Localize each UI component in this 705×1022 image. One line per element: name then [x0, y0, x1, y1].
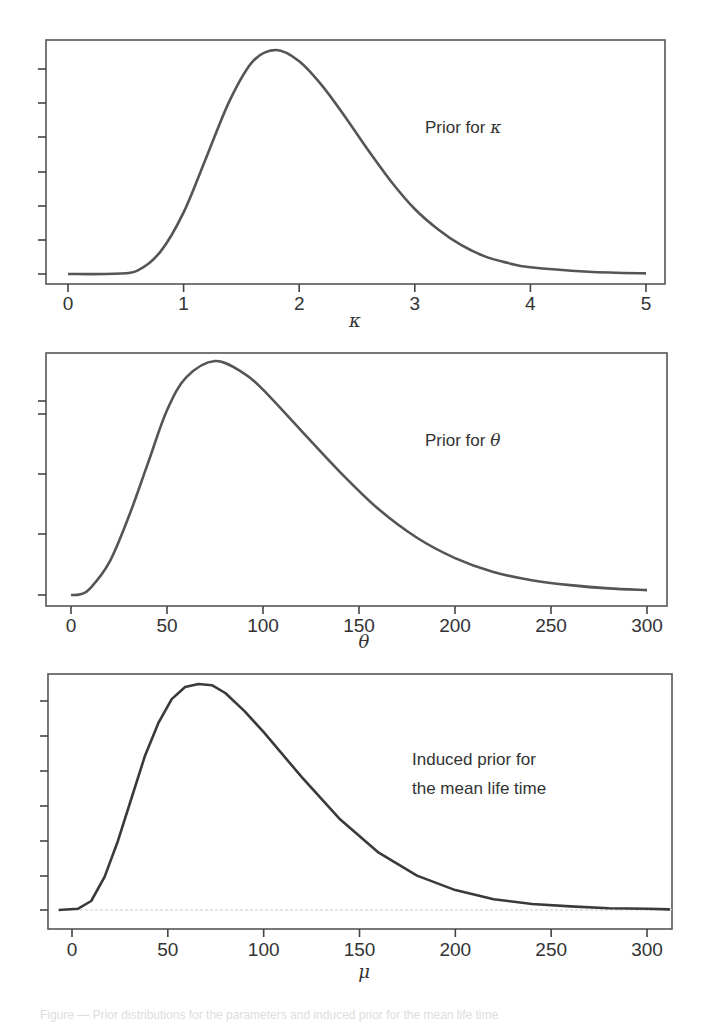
annotation-label: Prior for κ [425, 117, 501, 137]
y-axis-ticks [38, 69, 46, 274]
x-tick-label: 0 [67, 939, 78, 960]
density-curve-kappa [68, 50, 646, 274]
x-axis-label: μ [358, 961, 370, 982]
plot-frame [48, 674, 672, 929]
plot-frame [46, 353, 667, 606]
panel-theta: 050100150200250300 Prior for θ θ [38, 353, 667, 652]
x-axis-ticks: 050100150200250300 [67, 929, 663, 960]
y-axis-ticks [38, 401, 46, 595]
x-tick-label: 250 [535, 939, 567, 960]
x-tick-label: 100 [247, 615, 279, 636]
x-tick-label: 50 [156, 615, 177, 636]
x-tick-label: 200 [439, 615, 471, 636]
density-curve-theta [71, 361, 647, 595]
x-tick-label: 5 [641, 293, 652, 314]
x-tick-label: 100 [248, 939, 280, 960]
x-tick-label: 2 [294, 293, 305, 314]
annotation-line-1: Induced prior for [412, 750, 536, 769]
x-tick-label: 4 [525, 293, 536, 314]
x-tick-label: 3 [410, 293, 421, 314]
x-tick-label: 300 [631, 939, 663, 960]
panel-mu: 050100150200250300 Induced prior for the… [40, 674, 672, 982]
x-axis-label: κ [348, 310, 361, 331]
figure-caption: Figure — Prior distributions for the par… [40, 1008, 498, 1022]
x-tick-label: 300 [631, 615, 663, 636]
density-curve-mu [59, 684, 670, 910]
x-tick-label: 250 [535, 615, 567, 636]
annotation-line-2: the mean life time [412, 779, 546, 798]
x-axis-label: θ [359, 631, 370, 652]
y-axis-ticks [40, 701, 48, 910]
x-tick-label: 0 [63, 293, 74, 314]
x-tick-label: 1 [178, 293, 189, 314]
plot-frame [46, 40, 665, 284]
annotation-label: Prior for θ [425, 430, 500, 450]
x-tick-label: 200 [439, 939, 471, 960]
x-tick-label: 150 [344, 939, 376, 960]
x-tick-label: 50 [157, 939, 178, 960]
x-tick-label: 0 [66, 615, 77, 636]
panel-kappa: 012345 Prior for κ κ [38, 40, 665, 331]
